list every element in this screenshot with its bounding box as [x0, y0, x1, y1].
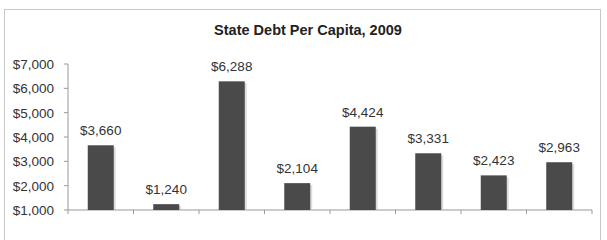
bar-ohio: [481, 175, 507, 210]
bar-florida: [284, 183, 310, 210]
data-label: $4,424: [342, 105, 384, 120]
y-tick-label: $5,000: [13, 106, 54, 121]
data-label: $6,288: [211, 59, 252, 74]
bar-michigan: [546, 162, 572, 210]
y-axis: $1,000$2,000$3,000$4,000$5,000$6,000$7,0…: [13, 57, 68, 216]
data-label: $2,423: [473, 153, 514, 168]
x-axis: [68, 210, 592, 214]
data-label: $1,240: [146, 182, 187, 197]
y-tick-label: $1,000: [13, 203, 54, 216]
bar-penn: [415, 153, 441, 210]
data-label: $2,963: [539, 140, 580, 155]
y-tick-label: $6,000: [13, 81, 54, 96]
y-tick-label: $7,000: [13, 57, 54, 72]
bar-california: [88, 145, 114, 210]
bar-chart: State Debt Per Capita, 2009 $1,000$2,000…: [0, 0, 607, 216]
data-label: $2,104: [277, 161, 319, 176]
chart-title: State Debt Per Capita, 2009: [214, 22, 402, 38]
y-tick-label: $2,000: [13, 179, 54, 194]
bar-texas: [153, 204, 179, 210]
data-label: $3,331: [408, 131, 449, 146]
bar-illinois: [350, 127, 376, 210]
y-tick-label: $4,000: [13, 130, 54, 145]
y-tick-label: $3,000: [13, 154, 54, 169]
data-label: $3,660: [80, 123, 121, 138]
bar-new-york: [219, 81, 245, 210]
